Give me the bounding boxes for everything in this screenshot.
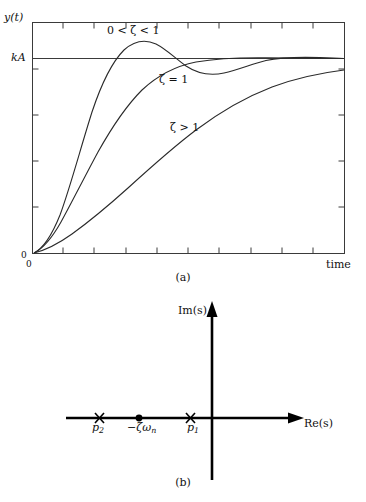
figure-second-order-response: y(t) kA 0 0 time 0 < ζ < 1 ζ = 1 ζ > 1 (… — [0, 0, 366, 502]
imaginary-axis-label: Im(s) — [178, 304, 207, 317]
right-axis-ticks — [339, 69, 345, 207]
pole-label-p2-subscript: 2 — [99, 426, 104, 435]
imaginary-axis — [207, 301, 218, 480]
y-tick-label-ka: kA — [11, 51, 26, 64]
x-axis-label-time: time — [326, 258, 351, 271]
pole-label-p1-base: p — [187, 421, 194, 434]
top-axis-ticks — [63, 23, 313, 29]
panel-b-pole-map — [0, 295, 366, 485]
pole-label-p1-subscript: 1 — [194, 426, 199, 435]
y-axis-label: y(t) — [4, 11, 23, 24]
curve-critically-damped — [34, 58, 344, 253]
sigma-label-subscript: n — [151, 426, 156, 435]
caption-panel-b: (b) — [0, 476, 366, 489]
real-axis-label: Re(s) — [304, 417, 333, 430]
pole-label-p2: p2 — [92, 421, 104, 435]
sigma-label-base: −ζω — [127, 421, 151, 434]
curve-label-underdamped: 0 < ζ < 1 — [107, 24, 159, 37]
panel-a-step-response-plot — [0, 0, 366, 285]
curve-label-critically-damped: ζ = 1 — [159, 73, 188, 86]
curve-label-overdamped: ζ > 1 — [170, 121, 199, 134]
left-axis-ticks — [33, 69, 39, 207]
curve-overdamped — [34, 70, 344, 253]
caption-panel-a: (a) — [0, 271, 366, 284]
pole-label-p2-base: p — [92, 421, 99, 434]
curve-underdamped — [34, 41, 344, 253]
bottom-axis-ticks — [63, 248, 313, 254]
origin-label-x: 0 — [26, 259, 32, 269]
pole-label-p1: p1 — [187, 421, 199, 435]
sigma-label: −ζωn — [127, 421, 156, 435]
